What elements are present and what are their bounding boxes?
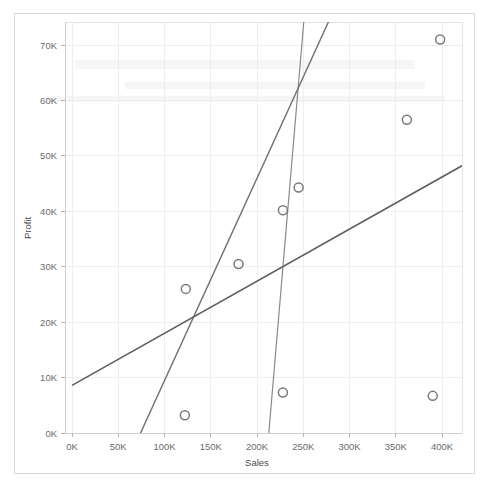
x-axis-title: Sales [245,457,269,468]
trend-line-steep-line [268,6,305,441]
x-tick-label: 400K [431,441,454,452]
x-tick-label: 150K [200,441,223,452]
data-points-group [180,35,444,420]
trend-line-shallow-line [72,161,470,385]
data-point[interactable] [402,115,411,124]
x-tick-label: 200K [246,441,269,452]
trend-line-mid-line [137,6,336,441]
y-tick-label: 20K [40,317,58,328]
x-tick-label: 100K [153,441,176,452]
data-point[interactable] [181,284,190,293]
plot-area-border [65,22,462,433]
trend-lines-group [72,6,470,441]
y-tick-label: 30K [40,261,58,272]
y-tick-label: 10K [40,372,58,383]
x-tick-label: 250K [292,441,315,452]
y-axis-title: Profit [22,217,33,240]
x-tick-label: 350K [385,441,408,452]
data-point[interactable] [294,183,303,192]
x-tick-label: 50K [110,441,128,452]
x-tick-label: 300K [338,441,361,452]
y-tick-label: 60K [40,95,58,106]
y-tick-label: 70K [40,40,58,51]
data-point[interactable] [278,206,287,215]
x-tick-label: 0K [66,441,78,452]
data-point[interactable] [180,411,189,420]
y-tick-label: 0K [45,428,57,439]
y-tick-label: 50K [40,150,58,161]
data-point[interactable] [428,391,437,400]
y-tick-label: 40K [40,206,58,217]
scatter-chart: 0K50K100K150K200K250K300K350K400K0K10K20… [0,0,489,499]
data-point[interactable] [278,388,287,397]
data-point[interactable] [436,35,445,44]
tick-labels-group: 0K50K100K150K200K250K300K350K400K0K10K20… [40,40,454,453]
plot-frame [65,22,462,433]
gridlines-group [65,22,462,433]
